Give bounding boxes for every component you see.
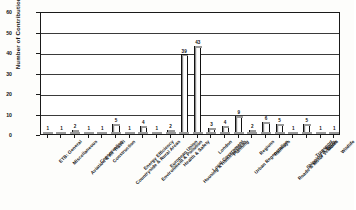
x-axis-tick-mark — [129, 135, 130, 138]
x-axis-tick-label: Conservation — [99, 139, 124, 164]
x-axis-tick-label: Water — [325, 139, 338, 152]
x-axis-tick-mark — [156, 135, 157, 138]
y-axis-title: Number of Contributions — [14, 0, 21, 87]
x-axis-tick-mark — [320, 135, 321, 138]
bar-value-label: 5 — [306, 118, 309, 123]
bar-value-label: 1 — [319, 126, 322, 131]
table-row[interactable]: 9 — [235, 110, 242, 134]
bar-value-label: 9 — [237, 110, 240, 115]
y-axis-tick-mark — [36, 135, 40, 136]
x-axis-tick-label: Shipping & Ports — [306, 139, 337, 170]
bar-value-label: 2 — [74, 124, 77, 129]
bar-value-label: 5 — [115, 118, 118, 123]
x-axis-tick-label: Construction — [112, 139, 137, 164]
bar-base-shadow — [43, 132, 53, 134]
bar-base-shadow — [261, 132, 271, 134]
x-axis-tick-mark — [265, 135, 266, 138]
x-axis-tick-label: ETB: General — [58, 139, 83, 164]
bar-base-shadow — [179, 132, 189, 134]
bar-base-shadow — [220, 132, 230, 134]
bar-value-label: 6 — [265, 116, 268, 121]
bar-base-shadow — [125, 132, 135, 134]
x-axis-tick-label: Railways — [273, 139, 291, 157]
bar-value-label: 1 — [292, 126, 295, 131]
x-axis-tick-label: Environment & Pollution — [161, 139, 204, 182]
x-axis-tick-label: European Union — [169, 139, 199, 169]
bar-base-shadow — [275, 132, 285, 134]
x-axis-tick-label: Housing & Homelessness — [202, 139, 247, 184]
bar-base-shadow — [138, 132, 148, 134]
bar-base-shadow — [329, 132, 339, 134]
bar-base-shadow — [152, 132, 162, 134]
x-axis-tick-label: Planning — [232, 139, 250, 157]
x-axis-tick-mark — [74, 135, 75, 138]
bar-value-label: 1 — [333, 126, 336, 131]
bar-value-label: 1 — [101, 126, 104, 131]
bar[interactable] — [194, 46, 201, 134]
bar-base-shadow — [84, 132, 94, 134]
x-axis-tick-label: Health & Safety — [182, 139, 210, 167]
bar-value-label: 1 — [128, 126, 131, 131]
bar-value-label: 5 — [278, 118, 281, 123]
bar-series: 112115141239433492651511 — [41, 13, 339, 134]
x-axis-tick-mark — [47, 135, 48, 138]
x-axis-tick-mark — [142, 135, 143, 138]
bar-value-label: 1 — [87, 126, 90, 131]
x-axis-tick-label: Miscellaneous — [72, 139, 99, 166]
x-axis-tick-mark — [170, 135, 171, 138]
y-axis-tick-label: 30 — [0, 71, 12, 77]
bar-base-shadow — [247, 132, 257, 134]
y-axis-tick-label: 10 — [0, 112, 12, 118]
x-axis-tick-mark — [210, 135, 211, 138]
x-axis-tick-mark — [279, 135, 280, 138]
bar-value-label: 2 — [169, 124, 172, 129]
bar-value-label: 4 — [224, 120, 227, 125]
bar-base-shadow — [316, 132, 326, 134]
x-axis-tick-label: London — [218, 139, 234, 155]
x-axis-tick-mark — [88, 135, 89, 138]
plot-area: 112115141239433492651511 — [40, 12, 340, 135]
x-axis-tick-label: Aviation & Air Travel — [90, 139, 126, 175]
bar-value-label: 1 — [156, 126, 159, 131]
x-axis-tick-label: Roads & Motor Vehicles — [297, 139, 339, 181]
x-axis-tick-label: Regions — [259, 139, 276, 156]
x-axis-tick-mark — [60, 135, 61, 138]
x-axis-tick-label: Wildlife — [340, 139, 356, 155]
x-axis-tick-mark — [306, 135, 307, 138]
x-axis-tick-mark — [333, 135, 334, 138]
x-axis-tick-mark — [224, 135, 225, 138]
bar-value-label: 43 — [195, 40, 200, 45]
y-axis-tick-label: 0 — [0, 132, 12, 138]
bar-base-shadow — [302, 132, 312, 134]
bar-value-label: 4 — [142, 120, 145, 125]
x-axis-tick-mark — [251, 135, 252, 138]
y-axis-tick-label: 20 — [0, 91, 12, 97]
bar-base-shadow — [206, 132, 216, 134]
table-row[interactable]: 43 — [194, 40, 201, 134]
x-axis-tick-label: Urban Regeneration — [253, 139, 289, 175]
x-axis-tick-label: Energy Efficiency — [142, 139, 174, 171]
table-row[interactable]: 39 — [181, 49, 188, 134]
bar[interactable] — [181, 54, 188, 134]
x-axis-tick-mark — [183, 135, 184, 138]
y-axis-tick-label: 40 — [0, 50, 12, 56]
y-axis-tick-label: 50 — [0, 30, 12, 36]
bar-value-label: 39 — [182, 49, 187, 54]
bar-base-shadow — [166, 132, 176, 134]
bar-base-shadow — [234, 132, 244, 134]
bar-base-shadow — [56, 132, 66, 134]
x-axis-tick-label: Local Government — [211, 139, 244, 172]
x-axis-tick-mark — [292, 135, 293, 138]
bar-value-label: 2 — [251, 124, 254, 129]
x-axis-tick-mark — [238, 135, 239, 138]
y-axis-tick-label: 60 — [0, 9, 12, 15]
bar-base-shadow — [288, 132, 298, 134]
bar-base-shadow — [97, 132, 107, 134]
x-axis-tick-label: Transport — [314, 139, 333, 158]
bar-base-shadow — [70, 132, 80, 134]
bar-value-label: 1 — [47, 126, 50, 131]
bar-value-label: 1 — [60, 126, 63, 131]
bar-value-label: 3 — [210, 122, 213, 127]
x-axis-tick-mark — [197, 135, 198, 138]
